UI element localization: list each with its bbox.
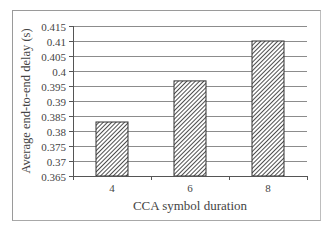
x-tick-label: 8 bbox=[265, 182, 271, 194]
x-tick-label: 6 bbox=[187, 182, 193, 194]
y-tick-label: 0.4 bbox=[52, 66, 66, 78]
bar-8 bbox=[252, 41, 284, 176]
bar-chart-plot: 0.4150.410.4050.40.3950.390.3850.380.375… bbox=[0, 0, 334, 236]
y-tick-label: 0.385 bbox=[41, 111, 66, 123]
y-axis-ticks: 0.4150.410.4050.40.3950.390.3850.380.375… bbox=[41, 21, 73, 183]
x-tick-label: 4 bbox=[109, 182, 115, 194]
y-tick-label: 0.405 bbox=[41, 51, 66, 63]
bars bbox=[96, 41, 284, 176]
y-tick-label: 0.38 bbox=[47, 126, 67, 138]
y-tick-label: 0.39 bbox=[47, 96, 67, 108]
y-tick-label: 0.375 bbox=[41, 141, 66, 153]
y-tick-label: 0.395 bbox=[41, 81, 66, 93]
y-tick-label: 0.37 bbox=[47, 156, 67, 168]
y-tick-label: 0.365 bbox=[41, 171, 66, 183]
x-axis-ticks: 468 bbox=[74, 176, 308, 194]
y-tick-label: 0.41 bbox=[47, 36, 66, 48]
y-tick-label: 0.415 bbox=[41, 21, 66, 33]
bar-4 bbox=[96, 122, 128, 176]
bar-6 bbox=[174, 81, 206, 176]
